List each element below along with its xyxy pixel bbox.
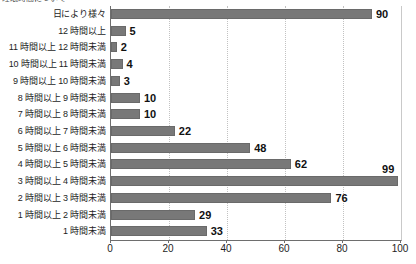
x-axis-tick-labels: 020406080100 (110, 242, 401, 258)
y-axis-label: 1 時間未満 (0, 223, 106, 240)
bar[interactable] (111, 9, 372, 19)
y-axis-label: 9 時間以上 10 時間未満 (0, 73, 106, 90)
y-axis-label: 1 時間以上 2 時間未満 (0, 207, 106, 224)
y-axis-label: 11 時間以上 12 時間未満 (0, 39, 106, 56)
x-axis-tick-label: 100 (392, 242, 409, 256)
y-axis-label: 5 時間以上 6 時間未満 (0, 140, 106, 157)
y-axis-label: 10 時間以上 11 時間未満 (0, 56, 106, 73)
bar-value-label: 99 (382, 162, 394, 176)
bar[interactable] (111, 210, 195, 220)
bar-row: 22 (111, 123, 401, 140)
bar-value-label: 33 (211, 224, 223, 238)
horizontal-bar-chart: 日により様々12 時間以上11 時間以上 12 時間未満10 時間以上 11 時… (0, 0, 416, 264)
bar-value-label: 5 (130, 24, 136, 38)
bar-value-label: 3 (124, 74, 130, 88)
y-axis-label: 7 時間以上 8 時間未満 (0, 106, 106, 123)
bar-row: 90 (111, 6, 401, 23)
bar-value-label: 62 (295, 157, 307, 171)
y-axis-label: 3 時間以上 4 時間未満 (0, 173, 106, 190)
bar-row: 48 (111, 140, 401, 157)
y-axis-category-labels: 日により様々12 時間以上11 時間以上 12 時間未満10 時間以上 11 時… (0, 6, 106, 240)
bar[interactable] (111, 176, 398, 186)
bar-row: 3 (111, 73, 401, 90)
bar[interactable] (111, 76, 120, 86)
y-axis-label: 6 時間以上 7 時間未満 (0, 123, 106, 140)
bar-value-label: 76 (335, 191, 347, 205)
bar-value-label: 22 (179, 124, 191, 138)
bar-row: 10 (111, 106, 401, 123)
y-axis-label: 8 時間以上 9 時間未満 (0, 90, 106, 107)
bar-row: 5 (111, 23, 401, 40)
bar-row: 10 (111, 90, 401, 107)
bar[interactable] (111, 159, 291, 169)
bar[interactable] (111, 226, 207, 236)
bar-rows: 905243101022486299762933 (111, 6, 401, 240)
y-axis-label: 日により様々 (0, 6, 106, 23)
y-axis-label: 12 時間以上 (0, 23, 106, 40)
bar[interactable] (111, 109, 140, 119)
bar-value-label: 29 (199, 208, 211, 222)
x-axis-tick-label: 20 (162, 242, 173, 256)
bar-row: 2 (111, 39, 401, 56)
bar[interactable] (111, 93, 140, 103)
bar-value-label: 48 (254, 141, 266, 155)
y-axis-label: 4 時間以上 5 時間未満 (0, 156, 106, 173)
bar-row: 76 (111, 190, 401, 207)
bar-row: 99 (111, 173, 401, 190)
bar[interactable] (111, 193, 331, 203)
bar-row: 33 (111, 223, 401, 240)
bar-row: 4 (111, 56, 401, 73)
bar[interactable] (111, 42, 117, 52)
y-axis-label: 2 時間以上 3 時間未満 (0, 190, 106, 207)
bar-value-label: 10 (144, 91, 156, 105)
x-axis-tick-label: 0 (107, 242, 113, 256)
plot-area: 905243101022486299762933 (110, 6, 402, 241)
x-axis-tick-label: 40 (220, 242, 231, 256)
bar-value-label: 90 (376, 7, 388, 21)
bar[interactable] (111, 126, 175, 136)
bar[interactable] (111, 59, 123, 69)
bar-row: 29 (111, 207, 401, 224)
bar-row: 62 (111, 156, 401, 173)
x-axis-tick-label: 80 (336, 242, 347, 256)
bar[interactable] (111, 26, 126, 36)
bar[interactable] (111, 143, 250, 153)
bar-value-label: 10 (144, 107, 156, 121)
x-axis-tick-label: 60 (278, 242, 289, 256)
bar-value-label: 4 (127, 57, 133, 71)
bar-value-label: 2 (121, 40, 127, 54)
